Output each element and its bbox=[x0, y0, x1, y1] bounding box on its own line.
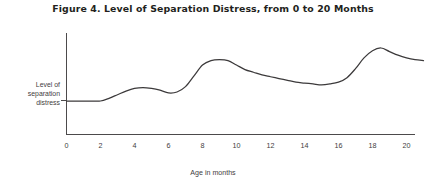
x-tick-label: 20 bbox=[394, 141, 420, 150]
x-tick-label: 0 bbox=[54, 141, 80, 150]
x-tick-label: 16 bbox=[326, 141, 352, 150]
separation-distress-curve bbox=[67, 48, 424, 101]
x-tick-label: 12 bbox=[258, 141, 284, 150]
figure-container: Figure 4. Level of Separation Distress, … bbox=[0, 0, 426, 192]
x-tick-label: 4 bbox=[122, 141, 148, 150]
y-axis-label-line-2: separation bbox=[6, 89, 60, 98]
y-axis-label: Level of separation distress bbox=[6, 80, 60, 108]
x-tick-label: 14 bbox=[292, 141, 318, 150]
axes-group bbox=[61, 33, 415, 135]
x-tick-label: 18 bbox=[360, 141, 386, 150]
chart-plot-area bbox=[0, 0, 426, 192]
x-tick-label: 10 bbox=[224, 141, 250, 150]
y-axis-label-line-3: distress bbox=[6, 98, 60, 107]
x-axis-title: Age in months bbox=[0, 169, 426, 177]
x-tick-label: 6 bbox=[156, 141, 182, 150]
x-tick-label: 8 bbox=[190, 141, 216, 150]
x-axis-tick-labels: 02468101214161820 bbox=[0, 141, 426, 153]
data-series-group bbox=[67, 48, 424, 101]
x-tick-label: 2 bbox=[88, 141, 114, 150]
y-axis-label-line-1: Level of bbox=[6, 80, 60, 89]
